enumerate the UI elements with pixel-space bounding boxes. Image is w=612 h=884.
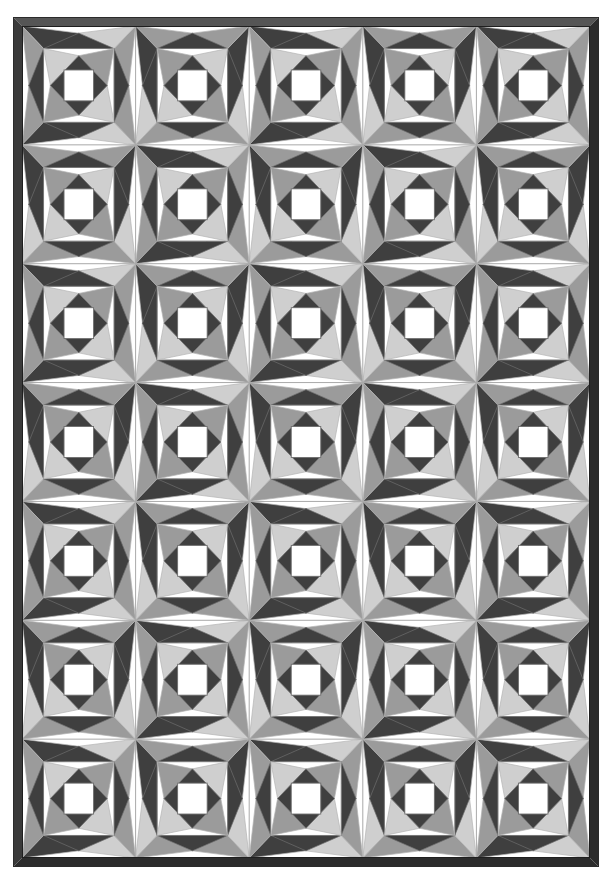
quilt-block [22,383,136,502]
center-square [291,189,321,220]
center-square [405,545,435,576]
quilt-block [249,145,363,264]
quilt-block [22,620,136,739]
border-right [590,17,599,867]
center-square [178,308,208,339]
center-square [405,783,435,814]
quilt-block [363,739,477,858]
center-square [178,70,208,101]
quilt-block [22,501,136,620]
center-square [178,664,208,695]
quilt-block [22,264,136,383]
quilt-block [363,383,477,502]
center-square [64,427,94,458]
quilt-block [476,501,590,620]
quilt-block [476,739,590,858]
center-square [178,427,208,458]
center-square [291,427,321,458]
quilt-block-field [22,26,590,858]
quilt-block [363,620,477,739]
border-bottom [13,858,599,867]
center-square [405,427,435,458]
center-square [518,308,548,339]
center-square [518,545,548,576]
quilt-canvas [0,0,612,884]
center-square [405,308,435,339]
center-square [178,545,208,576]
quilt-block [136,383,250,502]
center-square [291,545,321,576]
center-square [518,189,548,220]
quilt-block [363,145,477,264]
quilt-block [22,26,136,145]
center-square [64,664,94,695]
quilt-block [249,739,363,858]
quilt-block [363,264,477,383]
center-square [518,70,548,101]
center-square [64,783,94,814]
center-square [64,70,94,101]
quilt-block [476,383,590,502]
center-square [291,308,321,339]
quilt-artwork [0,0,612,884]
center-square [405,664,435,695]
quilt-block [363,26,477,145]
center-square [405,70,435,101]
quilt-block [476,145,590,264]
quilt-block [136,620,250,739]
quilt-block [136,739,250,858]
quilt-block [136,26,250,145]
center-square [291,783,321,814]
quilt-block [249,26,363,145]
center-square [405,189,435,220]
quilt-block [249,383,363,502]
quilt-block [136,501,250,620]
quilt-block [22,739,136,858]
center-square [64,189,94,220]
border-left [13,17,22,867]
center-square [64,308,94,339]
center-square [518,427,548,458]
quilt-block [22,145,136,264]
center-square [64,545,94,576]
center-square [291,664,321,695]
quilt-block [249,620,363,739]
center-square [518,783,548,814]
quilt-block [249,501,363,620]
quilt-block [476,26,590,145]
quilt-block [249,264,363,383]
center-square [178,189,208,220]
center-square [291,70,321,101]
quilt-block [476,264,590,383]
center-square [178,783,208,814]
center-square [518,664,548,695]
quilt-block [136,145,250,264]
quilt-block [476,620,590,739]
border-top [13,17,599,26]
quilt-block [363,501,477,620]
quilt-block [136,264,250,383]
